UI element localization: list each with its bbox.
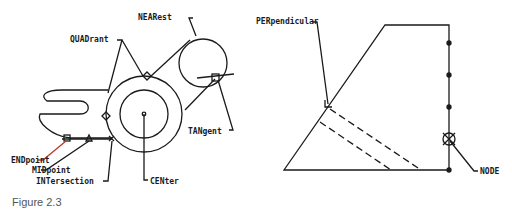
label-node: NODE (480, 167, 499, 176)
figure-caption: Figure 2.3 (12, 196, 62, 208)
right-drawing: PERpendicular NODE (256, 16, 499, 176)
label-intersection: INTersection (36, 176, 94, 186)
node-point-icon (447, 73, 451, 77)
label-perpendicular: PERpendicular (256, 16, 319, 26)
label-center: CENter (150, 177, 179, 186)
label-midpoint: MIDpoint (32, 165, 71, 175)
label-nearest: NEARest (138, 13, 172, 22)
small-circle (179, 39, 227, 87)
label-endpoint: ENDpoint (11, 155, 50, 165)
shape-outline (284, 25, 449, 170)
tangent-marker-icon (212, 74, 219, 81)
label-quadrant: QUADrant (70, 35, 109, 44)
node-point-icon (447, 168, 451, 172)
node-point-icon (447, 105, 451, 109)
node-point-icon (447, 41, 451, 45)
left-drawing: NEARest QUADrant TANgent ENDpoint MIDpoi… (11, 13, 234, 186)
label-tangent: TANgent (188, 127, 222, 136)
slot-shape (39, 90, 112, 138)
object-snap-diagram: NEARest QUADrant TANgent ENDpoint MIDpoi… (0, 0, 512, 218)
